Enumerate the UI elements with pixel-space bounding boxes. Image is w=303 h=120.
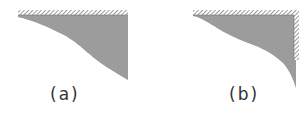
panel-a xyxy=(18,10,128,80)
hatched-wall-top-b xyxy=(193,10,298,15)
hatched-wall-top-a xyxy=(18,10,128,15)
hatched-wall-right-b xyxy=(294,10,299,60)
panel-label-a: (a) xyxy=(50,84,80,104)
panel-label-b: (b) xyxy=(229,84,259,104)
panel-b xyxy=(193,10,299,88)
